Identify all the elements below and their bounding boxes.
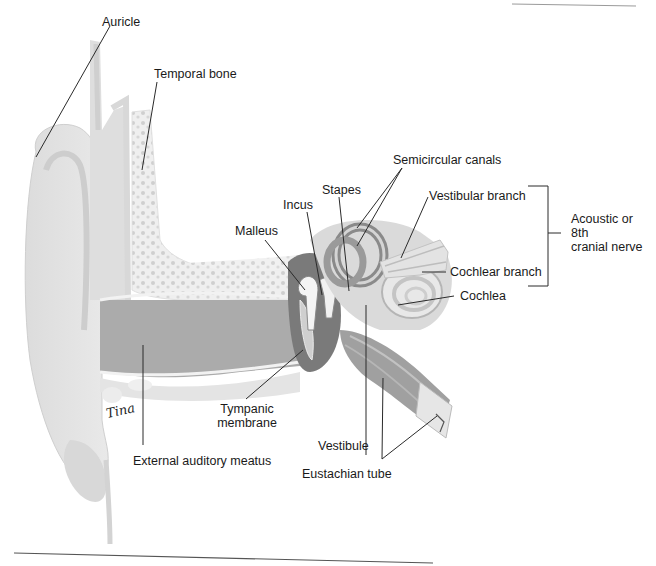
label-acoustic-nerve-line3: cranial nerve xyxy=(571,240,643,254)
label-stapes: Stapes xyxy=(322,183,361,197)
label-tympanic-line2: membrane xyxy=(212,416,282,430)
label-cochlea: Cochlea xyxy=(460,289,506,303)
label-vestibular-branch: Vestibular branch xyxy=(429,189,526,203)
ear-illustration xyxy=(0,0,656,566)
label-cochlear-branch: Cochlear branch xyxy=(450,265,542,279)
label-malleus: Malleus xyxy=(235,224,278,238)
label-external-auditory-meatus: External auditory meatus xyxy=(133,454,271,468)
label-semicircular-canals: Semicircular canals xyxy=(393,153,501,167)
label-vestibule: Vestibule xyxy=(318,439,369,453)
top-rule xyxy=(512,4,636,6)
label-incus: Incus xyxy=(283,198,313,212)
label-tympanic-membrane: Tympanic membrane xyxy=(212,402,282,430)
label-acoustic-nerve: Acoustic or 8th cranial nerve xyxy=(571,212,643,254)
label-acoustic-nerve-line1: Acoustic or xyxy=(571,212,643,226)
label-eustachian-tube: Eustachian tube xyxy=(302,467,392,481)
label-acoustic-nerve-line2: 8th xyxy=(571,226,643,240)
label-temporal-bone: Temporal bone xyxy=(154,67,237,81)
label-tympanic-line1: Tympanic xyxy=(212,402,282,416)
bottom-rule xyxy=(14,553,433,563)
label-auricle: Auricle xyxy=(102,15,140,29)
ear-anatomy-diagram: Auricle Temporal bone Semicircular canal… xyxy=(0,0,656,566)
